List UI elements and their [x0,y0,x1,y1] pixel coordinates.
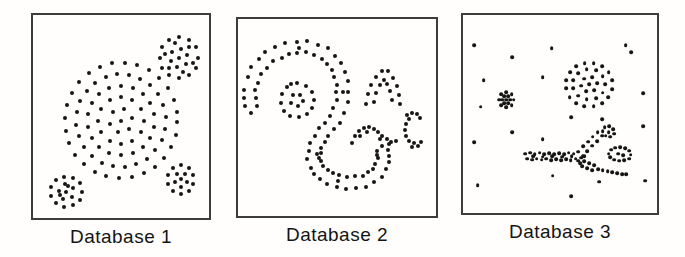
data-point [285,85,289,89]
data-point [601,74,605,78]
data-point [310,106,314,110]
data-point [288,114,292,118]
data-point [416,144,420,148]
data-point [601,91,605,95]
data-point [179,192,183,196]
data-point [346,90,350,94]
data-point [253,88,257,92]
data-point [545,157,549,161]
data-point [600,101,604,105]
data-point [152,125,156,129]
data-point [326,134,330,138]
data-point [305,112,309,116]
data-point [559,158,563,162]
data-point [346,100,350,104]
data-point [577,71,581,75]
data-point [161,103,165,107]
data-point [130,175,134,179]
data-point [328,114,332,118]
data-point [346,79,350,83]
data-point [177,76,181,80]
data-point [287,52,291,56]
data-point [172,98,176,102]
data-point [163,127,167,131]
data-point [296,104,300,108]
data-point [130,98,134,102]
data-point [418,116,422,120]
data-point [187,45,191,49]
data-point [569,158,573,162]
data-point [67,141,71,145]
data-point [173,41,177,45]
data-point [596,130,600,134]
data-point [71,176,75,180]
data-point [597,180,601,184]
data-point [312,98,316,102]
data-point [390,98,394,102]
data-point [66,184,70,188]
data-point [607,70,611,74]
scatter-plot-database-1 [33,15,209,218]
data-point [104,174,108,178]
data-point [171,189,175,193]
data-point [170,50,174,54]
data-point [141,92,145,96]
caption-database-1: Database 1 [31,226,211,248]
data-point [333,54,337,58]
data-point [85,89,89,93]
data-point [384,167,388,171]
data-point [141,145,145,149]
data-point [265,66,269,70]
data-point [611,171,615,175]
data-point [367,125,371,129]
data-point [242,88,246,92]
data-point [295,40,299,44]
data-point [353,134,357,138]
data-point [372,100,376,104]
data-point [320,57,324,61]
data-point [378,83,382,87]
data-point [273,45,277,49]
data-point [594,69,598,73]
data-point [504,106,508,110]
data-point [263,50,267,54]
data-point [612,158,616,162]
data-point [612,132,616,136]
data-point [316,43,320,47]
data-point [590,168,594,172]
data-point [482,78,486,82]
data-point [617,159,621,163]
data-point [104,75,108,79]
data-point [187,73,191,77]
data-point [107,86,111,90]
data-point [583,104,587,108]
caption-database-2: Database 2 [236,224,438,246]
data-point [171,166,175,170]
data-point [606,95,610,99]
data-point [382,78,386,82]
data-point [254,96,258,100]
data-point [622,158,626,162]
data-point [71,203,75,207]
data-point [70,195,74,199]
data-point [70,91,74,95]
data-point [153,148,157,152]
data-point [64,129,68,133]
data-point [80,190,84,194]
data-point [357,129,361,133]
data-point [549,158,553,162]
data-point [574,64,578,68]
data-point [93,170,97,174]
data-point [353,174,357,178]
data-point [582,77,586,81]
data-point [374,91,378,95]
data-point [325,182,329,186]
data-point [572,87,576,91]
data-point [131,86,135,90]
data-point [119,95,123,99]
data-point [344,187,348,191]
data-point [510,56,514,60]
data-point [364,102,368,106]
data-point [323,140,327,144]
data-point [271,59,275,63]
